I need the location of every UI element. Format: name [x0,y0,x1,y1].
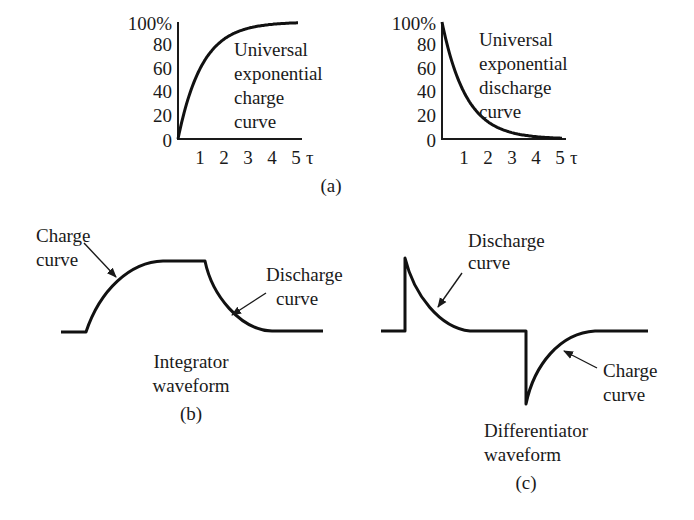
charge-y-tick-label: 80 [153,34,172,55]
charge-x-tick-label: 3 [243,147,253,168]
discharge-x-tick-label: 3 [507,147,517,168]
figure-canvas: 100%806040200 12345 τ Universal exponent… [0,0,694,520]
differentiator-charge-label-line-1: Charge [603,360,658,381]
discharge-x-tick-label: 2 [483,147,493,168]
integrator-waveform: Charge curve Discharge curve Integrator … [36,225,343,425]
charge-y-tick-label: 0 [163,130,173,151]
differentiator-discharge-label-line-2: curve [468,252,510,273]
charge-chart: 100%806040200 12345 τ Universal exponent… [128,13,323,168]
discharge-y-tick-label: 20 [417,105,436,126]
integrator-discharge-arrow [232,293,266,315]
differentiator-discharge-arrow [438,273,462,307]
charge-x-tick-label: 2 [219,147,229,168]
discharge-y-tick-label: 80 [417,34,436,55]
charge-y-tick-label: 20 [153,105,172,126]
discharge-y-tick-label: 40 [417,81,436,102]
discharge-chart: 100%806040200 12345 τ Universal exponent… [392,13,578,168]
integrator-charge-label-line-1: Charge [36,225,91,246]
discharge-annotation-line-1: Universal [479,29,553,50]
integrator-charge-label-line-2: curve [36,249,78,270]
charge-y-tick-label: 60 [153,58,172,79]
discharge-x-tick-label: 4 [531,147,541,168]
discharge-y-tick-label: 0 [427,130,437,151]
discharge-x-unit: τ [570,147,578,168]
discharge-y-tick-label: 100% [392,13,437,34]
charge-annotation-line-3: charge [234,87,284,108]
charge-y-tick-label: 100% [128,13,173,34]
integrator-discharge-label-line-1: Discharge [266,264,343,285]
integrator-discharge-label-line-2: curve [276,288,318,309]
integrator-title-line-1: Integrator [154,351,230,372]
charge-annotation-line-2: exponential [234,63,323,84]
charge-y-tick-label: 40 [153,81,172,102]
differentiator-discharge-label-line-1: Discharge [468,230,545,251]
discharge-x-tick-label: 1 [459,147,469,168]
differentiator-title-line-1: Differentiator [484,420,589,441]
discharge-annotation-line-3: discharge [479,77,551,98]
panel-a-label: (a) [320,175,341,197]
integrator-title-line-2: waveform [152,375,229,396]
differentiator-charge-label-line-2: curve [603,384,645,405]
charge-x-tick-label: 5 [291,147,301,168]
panel-b-label: (b) [180,403,202,425]
panel-c-label: (c) [515,472,536,494]
charge-annotation-line-4: curve [234,111,276,132]
discharge-y-tick-label: 60 [417,58,436,79]
charge-annotation-line-1: Universal [234,39,308,60]
discharge-annotation-line-2: exponential [479,53,568,74]
differentiator-charge-arrow [564,351,597,368]
discharge-annotation-line-4: curve [479,101,521,122]
charge-x-tick-label: 4 [267,147,277,168]
charge-x-unit: τ [306,147,314,168]
discharge-x-tick-label: 5 [555,147,565,168]
integrator-charge-arrow [84,243,116,277]
differentiator-title-line-2: waveform [484,444,561,465]
differentiator-trace [381,258,648,404]
charge-x-tick-label: 1 [195,147,205,168]
differentiator-waveform: Discharge curve Charge curve Differentia… [381,230,658,494]
